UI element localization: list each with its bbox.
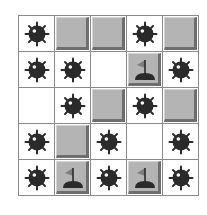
mine-icon [132, 93, 158, 119]
cell-r0-c4[interactable] [163, 16, 199, 52]
mine-icon [24, 129, 50, 155]
cell-r1-c2 [91, 52, 127, 88]
flag-icon [59, 164, 85, 190]
cell-r4-c4 [163, 160, 199, 196]
cell-r4-c0 [19, 160, 55, 196]
mine-icon [168, 129, 194, 155]
mine-icon [24, 57, 50, 83]
covered-tile[interactable] [128, 161, 161, 194]
covered-tile[interactable] [56, 125, 89, 158]
cell-r3-c4 [163, 124, 199, 160]
cell-r3-c1[interactable] [55, 124, 91, 160]
mine-icon [168, 57, 194, 83]
game-board [18, 15, 199, 196]
cell-r3-c0 [19, 124, 55, 160]
flag-icon [131, 56, 157, 82]
covered-tile[interactable] [92, 89, 125, 122]
mine-icon [60, 93, 86, 119]
cell-r1-c4 [163, 52, 199, 88]
covered-tile[interactable] [128, 53, 161, 86]
cell-r4-c2 [91, 160, 127, 196]
cell-r1-c1 [55, 52, 91, 88]
cell-r0-c0 [19, 16, 55, 52]
flag-icon [131, 164, 157, 190]
cell-r1-c3[interactable] [127, 52, 163, 88]
mine-icon [24, 21, 50, 47]
covered-tile[interactable] [56, 161, 89, 194]
cell-r0-c1[interactable] [55, 16, 91, 52]
covered-tile[interactable] [164, 17, 197, 50]
covered-tile[interactable] [164, 89, 197, 122]
cell-r3-c2 [91, 124, 127, 160]
cell-r4-c1[interactable] [55, 160, 91, 196]
mine-icon [168, 165, 194, 191]
mine-icon [60, 57, 86, 83]
cell-r2-c3 [127, 88, 163, 124]
cell-r4-c3[interactable] [127, 160, 163, 196]
cell-r2-c1 [55, 88, 91, 124]
mine-icon [24, 165, 50, 191]
cell-r1-c0 [19, 52, 55, 88]
covered-tile[interactable] [56, 17, 89, 50]
cell-r2-c0 [19, 88, 55, 124]
cell-r2-c4[interactable] [163, 88, 199, 124]
mine-icon [132, 21, 158, 47]
covered-tile[interactable] [92, 17, 125, 50]
cell-r0-c2[interactable] [91, 16, 127, 52]
cell-r0-c3 [127, 16, 163, 52]
mine-icon [96, 129, 122, 155]
cell-r3-c3 [127, 124, 163, 160]
mine-icon [96, 165, 122, 191]
cell-r2-c2[interactable] [91, 88, 127, 124]
